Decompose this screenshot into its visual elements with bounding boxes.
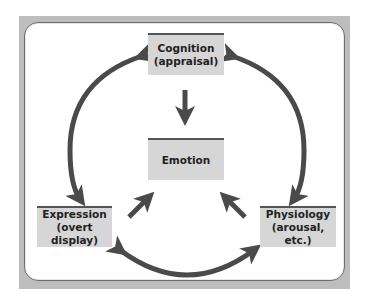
- arrow-expression-physiology: [120, 250, 254, 275]
- arrow-cognition-expression: [70, 56, 142, 199]
- node-emotion: Emotion: [148, 138, 224, 180]
- arrow-expression-emotion: [129, 198, 148, 217]
- node-expression: Expression (overt display): [37, 206, 112, 247]
- node-cognition-title: Cognition: [158, 42, 215, 55]
- node-emotion-title: Emotion: [162, 154, 211, 167]
- node-physiology-subtitle: (arousal, etc.): [260, 221, 336, 247]
- node-physiology-title: Physiology: [266, 208, 330, 221]
- arrow-physiology-emotion: [226, 198, 245, 217]
- node-cognition-subtitle: (appraisal): [154, 55, 219, 68]
- node-expression-title: Expression: [42, 208, 107, 221]
- node-physiology: Physiology (arousal, etc.): [260, 206, 336, 247]
- arrow-cognition-physiology: [232, 56, 304, 199]
- node-cognition: Cognition (appraisal): [148, 33, 224, 75]
- node-expression-subtitle: (overt display): [37, 221, 112, 247]
